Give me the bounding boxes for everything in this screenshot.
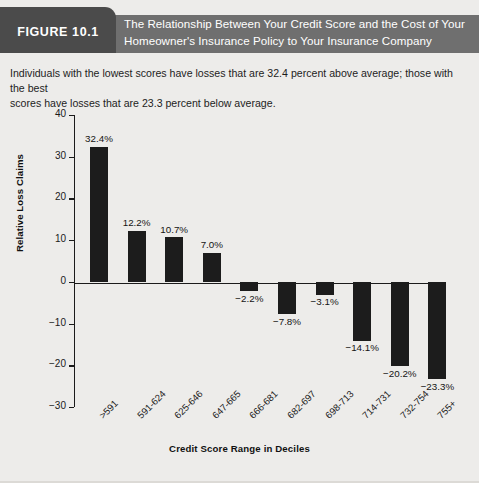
bar — [90, 147, 108, 282]
bar — [428, 282, 446, 379]
y-axis-tick-mark — [69, 282, 74, 283]
bar — [240, 282, 258, 291]
y-axis-tick-label: −30 — [49, 400, 66, 411]
y-axis-line — [74, 115, 75, 407]
bar — [203, 253, 221, 282]
bar — [128, 231, 146, 282]
y-axis-tick-label: 10 — [55, 233, 66, 244]
y-axis-tick-mark — [69, 115, 74, 116]
y-axis-tick-label: 0 — [60, 275, 66, 286]
y-axis-title: Relative Loss Claims — [14, 154, 25, 252]
bar — [278, 282, 296, 315]
bar-value-label: −7.8% — [264, 316, 310, 327]
bar — [391, 282, 409, 366]
figure-title-line-2: Homeowner's Insurance Policy to Your Ins… — [124, 33, 474, 50]
plot-area: 403020100−10−20−30 32.4%12.2%10.7%7.0%−2… — [74, 115, 440, 407]
y-axis-tick-label: −10 — [49, 317, 66, 328]
bar-value-label: 32.4% — [76, 133, 122, 144]
x-axis-title: Credit Score Range in Deciles — [0, 443, 479, 454]
figure-title-line-1: The Relationship Between Your Credit Sco… — [124, 16, 474, 33]
bar-chart: Relative Loss Claims 403020100−10−20−30 … — [0, 104, 479, 474]
y-axis-tick-mark — [69, 324, 74, 325]
figure-number-label: FIGURE 10.1 — [0, 25, 116, 39]
bar-value-label: 10.7% — [151, 224, 197, 235]
y-axis-tick-mark — [69, 365, 74, 366]
figure-number-tab: FIGURE 10.1 — [0, 7, 116, 53]
y-axis-tick-mark — [69, 240, 74, 241]
y-axis-tick-mark — [69, 198, 74, 199]
bar-value-label: −2.2% — [226, 293, 272, 304]
bar — [165, 237, 183, 282]
bar — [316, 282, 334, 295]
caption-line-1: Individuals with the lowest scores have … — [10, 66, 462, 96]
bar-value-label: −3.1% — [302, 296, 348, 307]
bar-value-label: −14.1% — [339, 342, 385, 353]
y-axis-tick-label: 30 — [55, 150, 66, 161]
y-axis-tick-mark — [69, 407, 74, 408]
bar-value-label: 7.0% — [189, 239, 235, 250]
bar-value-label: −20.2% — [377, 368, 423, 379]
y-axis-tick-label: 20 — [55, 191, 66, 202]
bar — [353, 282, 371, 341]
figure-title: The Relationship Between Your Credit Sco… — [124, 16, 474, 49]
y-axis-tick-mark — [69, 157, 74, 158]
figure-container: FIGURE 10.1 The Relationship Between You… — [0, 0, 479, 483]
figure-header: FIGURE 10.1 The Relationship Between You… — [0, 0, 479, 58]
y-axis-tick-label: −20 — [49, 358, 66, 369]
y-axis-tick-label: 40 — [55, 108, 66, 119]
